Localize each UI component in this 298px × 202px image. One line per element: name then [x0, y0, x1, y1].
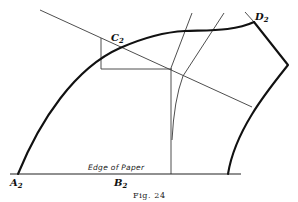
figure-caption: Fig. 24	[133, 191, 166, 200]
side-seam-curve	[228, 22, 288, 174]
pattern-diagram: C2 D2 A2 B2 Edge of Paper Fig. 24	[0, 0, 298, 202]
diagonal-construction-line	[40, 10, 252, 107]
label-b2: B2	[113, 177, 127, 190]
armhole-curve	[18, 22, 254, 174]
edge-of-paper-label: Edge of Paper	[88, 163, 145, 172]
d2-tick-line	[245, 12, 254, 22]
label-a2: A2	[9, 177, 23, 190]
slanted-construction-line-1	[171, 13, 192, 68]
label-d2: D2	[254, 11, 269, 24]
